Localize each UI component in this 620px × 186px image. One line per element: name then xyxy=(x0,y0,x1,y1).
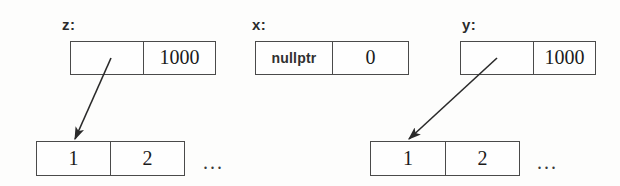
variable-label-y: y: xyxy=(462,17,476,32)
variable-label-z: z: xyxy=(62,17,76,32)
array-cell: 1 xyxy=(37,142,110,175)
pointer-record-z: 1000 xyxy=(70,41,216,75)
pointer-record-x: nullptr 0 xyxy=(255,41,409,75)
array-cell: 2 xyxy=(110,142,184,175)
array-cell: 2 xyxy=(445,142,519,175)
size-cell-y: 1000 xyxy=(533,42,595,74)
variable-label-x: x: xyxy=(252,17,266,32)
array-ellipsis-left: ... xyxy=(203,152,224,172)
array-ellipsis-right: ... xyxy=(537,152,558,172)
size-cell-z: 1000 xyxy=(143,42,215,74)
array-box-left: 1 2 xyxy=(36,141,185,176)
size-cell-x: 0 xyxy=(332,42,408,74)
pointer-cell-z xyxy=(71,42,143,74)
array-cell: 1 xyxy=(371,142,445,175)
pointer-cell-x: nullptr xyxy=(256,42,332,74)
array-box-right: 1 2 xyxy=(370,141,520,176)
pointer-cell-y xyxy=(461,42,533,74)
pointer-diagram: z: x: y: 1000 nullptr 0 1000 1 2 ... 1 2… xyxy=(0,0,620,186)
pointer-record-y: 1000 xyxy=(460,41,596,75)
